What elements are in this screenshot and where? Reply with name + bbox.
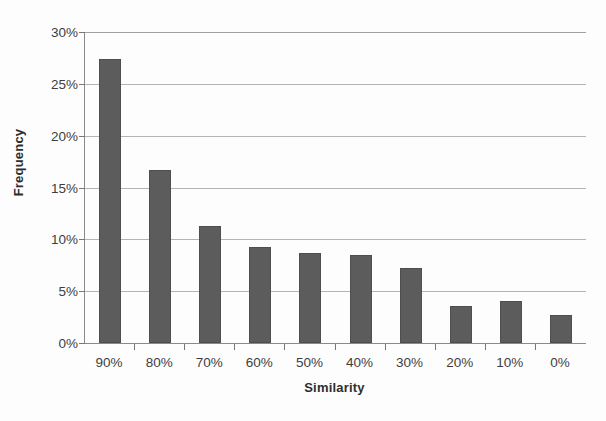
x-axis-tick-mark	[284, 344, 285, 350]
x-axis-tick-mark	[485, 344, 486, 350]
x-axis-tick-label: 80%	[134, 355, 184, 370]
y-axis-tick-label: 15%	[4, 180, 78, 195]
x-axis-tick-label: 70%	[184, 355, 234, 370]
bar-slot	[386, 32, 436, 343]
y-axis-tick-label: 10%	[4, 232, 78, 247]
bar	[149, 170, 171, 343]
y-axis-tick-label: 25%	[4, 76, 78, 91]
x-axis-tick-label: 90%	[84, 355, 134, 370]
bar	[500, 301, 522, 344]
x-axis-tick-label: 40%	[334, 355, 384, 370]
bar-slot	[235, 32, 285, 343]
bar	[450, 306, 472, 343]
x-axis-tick-mark	[234, 344, 235, 350]
bar	[299, 253, 321, 343]
x-axis-tick-labels: 90%80%70%60%50%40%30%20%10%0%	[84, 355, 585, 370]
bar-slot	[536, 32, 586, 343]
bar-slot	[335, 32, 385, 343]
bar	[249, 247, 271, 343]
y-axis-tick-label: 0%	[4, 336, 78, 351]
bar-slot	[486, 32, 536, 343]
x-axis-title: Similarity	[84, 380, 585, 395]
x-axis-tick-marks	[84, 344, 585, 352]
y-axis-tick-label: 20%	[4, 128, 78, 143]
y-axis-tick-label: 5%	[4, 284, 78, 299]
bar	[199, 226, 221, 343]
x-axis-tick-mark	[535, 344, 536, 350]
x-axis-tick-label: 60%	[234, 355, 284, 370]
bar-series	[85, 32, 586, 343]
bar-slot	[85, 32, 135, 343]
bar-slot	[285, 32, 335, 343]
x-axis-tick-mark	[385, 344, 386, 350]
x-axis-tick-mark	[134, 344, 135, 350]
x-axis-tick-label: 10%	[485, 355, 535, 370]
bar	[350, 255, 372, 343]
x-axis-tick-label: 20%	[435, 355, 485, 370]
x-axis-tick-mark	[184, 344, 185, 350]
bar	[400, 268, 422, 343]
x-axis-tick-label: 50%	[284, 355, 334, 370]
bar-slot	[135, 32, 185, 343]
bar	[550, 315, 572, 343]
x-axis-tick-label: 30%	[385, 355, 435, 370]
bar	[99, 59, 121, 343]
x-axis-tick-mark	[435, 344, 436, 350]
bar-slot	[185, 32, 235, 343]
plot-area	[84, 32, 586, 344]
y-axis-tick-label: 30%	[4, 25, 78, 40]
y-axis-tick-labels: 30%25%20%15%10%5%0%	[0, 0, 78, 421]
bar-chart: Frequency 30%25%20%15%10%5%0% 90%80%70%6…	[0, 0, 606, 421]
x-axis-tick-mark	[335, 344, 336, 350]
bar-slot	[436, 32, 486, 343]
x-axis-tick-label: 0%	[535, 355, 585, 370]
